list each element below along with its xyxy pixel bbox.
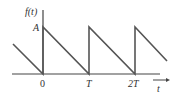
tick-label-2T: 2T bbox=[128, 78, 140, 89]
waveform-line bbox=[13, 27, 167, 74]
tick-label-T: T bbox=[86, 78, 93, 89]
t-arrow-icon bbox=[153, 78, 170, 82]
tick-label-0: 0 bbox=[40, 78, 45, 89]
peak-label: A bbox=[32, 22, 40, 33]
y-axis-label: f(t) bbox=[25, 6, 38, 18]
x-axis-label: t bbox=[157, 83, 160, 94]
sawtooth-chart: f(t) A 0 T 2T t bbox=[0, 0, 178, 96]
